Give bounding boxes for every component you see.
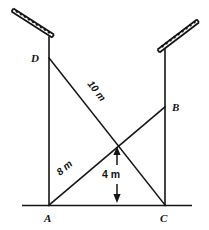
dimension-label-8m: 8 m bbox=[54, 158, 74, 178]
right-plank-icon bbox=[158, 20, 200, 53]
vertex-label-a: A bbox=[43, 212, 51, 224]
dimension-label-4m: 4 m bbox=[102, 168, 120, 180]
vertex-label-c: C bbox=[160, 212, 168, 224]
cable-ab bbox=[49, 107, 165, 205]
cable-dc bbox=[49, 58, 165, 205]
left-plank-icon bbox=[12, 9, 55, 38]
dimension-label-10m: 10 m bbox=[85, 78, 108, 103]
diagram-canvas: D B A C 10 m 8 m 4 m bbox=[0, 0, 209, 230]
vertex-label-b: B bbox=[171, 101, 179, 113]
vertex-label-d: D bbox=[30, 52, 39, 64]
geometry-diagram: D B A C 10 m 8 m 4 m bbox=[0, 0, 209, 230]
